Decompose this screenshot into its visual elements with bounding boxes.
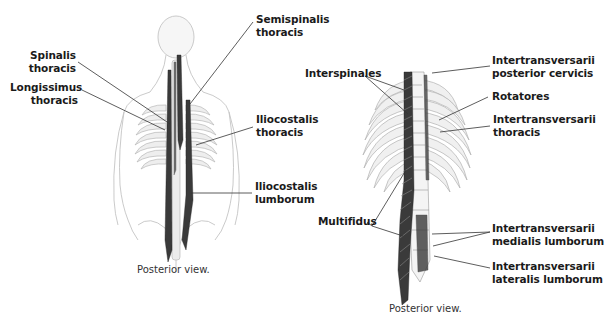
label-line-2: medialis lumborum: [492, 235, 604, 248]
label-line-2: thoracis: [256, 126, 318, 139]
caption-left: Posterior view.: [137, 264, 210, 275]
label-semispinalis-thoracis: Semispinalis thoracis: [256, 13, 329, 39]
label-interspinales: Interspinales: [305, 67, 381, 80]
label-line-1: Intertransversarii: [493, 113, 596, 126]
label-line-1: Rotatores: [492, 90, 549, 103]
label-line-1: Intertransversarii: [492, 54, 595, 67]
label-iliocostalis-thoracis: Iliocostalis thoracis: [256, 113, 318, 139]
label-iliocostalis-lumborum: Iliocostalis lumborum: [255, 180, 317, 206]
label-line-1: Longissimus: [10, 81, 78, 94]
label-intertransversarii-medialis-lumborum: Intertransversarii medialis lumborum: [492, 222, 604, 248]
label-line-2: thoracis: [22, 62, 76, 75]
label-multifidus: Multifidus: [318, 215, 377, 228]
label-line-2: thoracis: [10, 94, 78, 107]
label-intertransversarii-posterior-cervicis: Intertransversarii posterior cervicis: [492, 54, 595, 80]
label-line-2: posterior cervicis: [492, 67, 595, 80]
caption-right: Posterior view.: [389, 303, 462, 314]
label-line-2: thoracis: [256, 26, 329, 39]
label-line-1: Semispinalis: [256, 13, 329, 26]
label-line-2: lumborum: [255, 193, 317, 206]
label-intertransversarii-thoracis: Intertransversarii thoracis: [493, 113, 596, 139]
label-longissimus-thoracis: Longissimus thoracis: [10, 81, 78, 107]
label-line-2: lateralis lumborum: [492, 273, 603, 286]
label-line-1: Iliocostalis: [256, 113, 318, 126]
label-rotatores: Rotatores: [492, 90, 549, 103]
label-spinalis-thoracis: Spinalis thoracis: [22, 49, 76, 75]
label-line-1: Intertransversarii: [492, 260, 603, 273]
label-line-1: Spinalis: [22, 49, 76, 62]
label-line-1: Multifidus: [318, 215, 377, 228]
label-line-1: Iliocostalis: [255, 180, 317, 193]
label-intertransversarii-lateralis-lumborum: Intertransversarii lateralis lumborum: [492, 260, 603, 286]
label-line-1: Interspinales: [305, 67, 381, 80]
label-line-1: Intertransversarii: [492, 222, 604, 235]
label-line-2: thoracis: [493, 126, 596, 139]
